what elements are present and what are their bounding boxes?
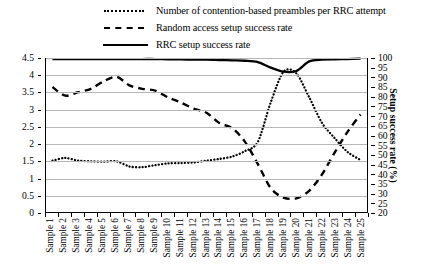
- x-axis-tick: [161, 213, 162, 217]
- x-axis-tick: [290, 213, 291, 217]
- x-axis-label-slot: Sample 22: [317, 218, 329, 274]
- x-axis-tick-label: Sample 14: [215, 218, 224, 258]
- y-axis-right-tick: [371, 68, 375, 69]
- x-axis-label-slot: Sample 18: [265, 218, 277, 274]
- x-axis-tick: [174, 213, 175, 217]
- gridline: [46, 144, 367, 145]
- x-axis-tick: [342, 213, 343, 217]
- x-axis-tick: [368, 213, 369, 217]
- gridline: [46, 58, 367, 59]
- x-axis-labels: Sample 1Sample 2Sample 3Sample 4Sample 5…: [45, 218, 368, 274]
- y-axis-right-tick: [371, 174, 375, 175]
- gridline: [46, 127, 367, 128]
- x-axis-tick-label: Sample 12: [189, 218, 198, 258]
- series-line-random-access: [52, 77, 360, 199]
- x-axis-tick: [303, 213, 304, 217]
- y-axis-left-tick: [38, 110, 41, 111]
- y-axis-left-tick-label: 3: [29, 105, 34, 115]
- x-axis-tick-label: Sample 15: [228, 218, 237, 258]
- y-axis-left-tick-label: 1: [29, 174, 34, 184]
- x-axis-tick-label: Sample 3: [73, 218, 82, 253]
- x-axis-label-slot: Sample 21: [304, 218, 316, 274]
- x-axis-tick-label: Sample 1: [47, 218, 56, 253]
- x-axis-tick: [148, 213, 149, 217]
- gridline: [46, 92, 367, 93]
- x-axis-label-slot: Sample 6: [110, 218, 122, 274]
- x-axis-tick-label: Sample 20: [292, 218, 301, 258]
- x-axis-label-slot: Sample 16: [239, 218, 251, 274]
- plot-area: [45, 58, 368, 213]
- y-axis-left-tick: [38, 75, 41, 76]
- y-axis-left-tick: [38, 161, 41, 162]
- x-axis-tick-label: Sample 4: [86, 218, 95, 253]
- y-axis-right-tick: [371, 165, 375, 166]
- x-axis-label-slot: Sample 17: [252, 218, 264, 274]
- x-axis-tick-label: Sample 8: [137, 218, 146, 253]
- x-axis-tick-label: Sample 7: [124, 218, 133, 253]
- legend-label-preambles: Number of contention-based preambles per…: [156, 5, 386, 16]
- x-axis-tick: [239, 213, 240, 217]
- dashed-line-icon: [104, 27, 156, 29]
- x-axis-label-slot: Sample 12: [188, 218, 200, 274]
- x-axis-label-slot: Sample 4: [84, 218, 96, 274]
- y-axis-left-tick: [38, 213, 41, 214]
- y-axis-right-tick: [371, 136, 375, 137]
- x-axis-tick: [110, 213, 111, 217]
- y-axis-left-tick-label: 0.5: [22, 191, 34, 201]
- x-axis-tick-label: Sample 18: [266, 218, 275, 258]
- x-axis-label-slot: Sample 3: [71, 218, 83, 274]
- x-axis-tick: [265, 213, 266, 217]
- y-axis-right-tick: [371, 58, 375, 59]
- x-axis-tick: [71, 213, 72, 217]
- y-axis-right-tick: [371, 87, 375, 88]
- x-axis-label-slot: Sample 23: [330, 218, 342, 274]
- legend-label-random-access: Random access setup success rate: [156, 22, 292, 33]
- x-axis-tick-label: Sample 6: [111, 218, 120, 253]
- y-axis-right-tick: [371, 116, 375, 117]
- gridline: [46, 179, 367, 180]
- x-axis-label-slot: Sample 9: [149, 218, 161, 274]
- x-axis-tick-label: Sample 23: [331, 218, 340, 258]
- y-axis-left-tick: [38, 179, 41, 180]
- y-axis-left-tick-label: 4: [29, 70, 34, 80]
- y-axis-right-tick: [371, 194, 375, 195]
- x-axis-label-slot: Sample 19: [278, 218, 290, 274]
- x-axis-tick-label: Sample 22: [318, 218, 327, 258]
- legend-item-preambles: Number of contention-based preambles per…: [0, 2, 422, 19]
- x-axis-tick: [187, 213, 188, 217]
- x-axis-tick-label: Sample 24: [344, 218, 353, 258]
- legend-item-random-access: Random access setup success rate: [0, 19, 422, 36]
- x-axis-tick: [58, 213, 59, 217]
- x-axis-tick-label: Sample 17: [254, 218, 263, 258]
- x-axis-label-slot: Sample 24: [343, 218, 355, 274]
- x-axis-tick-label: Sample 16: [241, 218, 250, 258]
- y-axis-right-tick: [371, 126, 375, 127]
- x-axis-tick: [84, 213, 85, 217]
- x-axis-tick-label: Sample 2: [60, 218, 69, 253]
- y-axis-right-title: Setup success rate (%): [382, 58, 404, 213]
- y-axis-right-tick: [371, 145, 375, 146]
- x-axis-label-slot: Sample 10: [162, 218, 174, 274]
- x-axis-tick: [252, 213, 253, 217]
- y-axis-left-tick: [38, 58, 41, 59]
- x-axis-tick: [213, 213, 214, 217]
- x-axis-label-slot: Sample 2: [58, 218, 70, 274]
- x-axis-tick-label: Sample 25: [357, 218, 366, 258]
- y-axis-right-tick: [371, 184, 375, 185]
- y-axis-right-tick: [371, 203, 375, 204]
- x-axis-tick-label: Sample 21: [305, 218, 314, 258]
- y-axis-left-tick-label: 2.5: [22, 122, 34, 132]
- y-axis-left: 4.543.532.521.510.50: [0, 58, 41, 213]
- y-axis-right-tick: [371, 97, 375, 98]
- x-axis-tick: [329, 213, 330, 217]
- x-axis-tick: [278, 213, 279, 217]
- gridline: [46, 75, 367, 76]
- y-axis-left-tick-label: 2: [29, 139, 34, 149]
- x-axis-label-slot: Sample 1: [45, 218, 57, 274]
- x-axis-tick-label: Sample 19: [279, 218, 288, 258]
- x-axis-tick-label: Sample 10: [163, 218, 172, 258]
- x-axis-tick-label: Sample 9: [150, 218, 159, 253]
- gridline: [46, 110, 367, 111]
- gridline: [46, 161, 367, 162]
- y-axis-left-tick-label: 0: [29, 208, 34, 218]
